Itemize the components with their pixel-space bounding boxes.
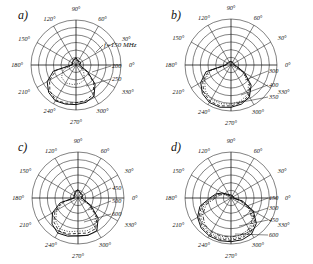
angle-label-0: 0° [132,194,138,201]
curve-value-label: 350 [268,93,279,100]
angle-label-180: 180° [12,194,24,201]
angle-label-300: 300° [251,108,264,115]
curve-value-label: 150 [269,194,279,201]
curve-value-label: 450 [269,216,279,223]
panel-letter-b: b) [171,8,181,23]
angle-label-120: 120° [198,147,210,154]
angle-label-180: 180° [11,61,23,68]
angle-label-210: 210° [18,88,30,95]
angle-label-300: 300° [96,107,109,114]
curve-value-label: 450 [112,184,122,191]
frequency-label: f=150 MHz [104,41,137,49]
angle-label-90: 90° [227,4,236,11]
panel-letter-c: c) [18,140,27,155]
angle-label-180: 180° [165,61,177,68]
angle-label-0: 0° [285,194,291,201]
angle-label-330: 330° [124,221,137,228]
angle-label-270: 270° [225,252,237,259]
angle-label-60: 60° [254,147,263,154]
angle-label-300: 300° [98,241,111,248]
angle-label-150: 150° [172,167,184,174]
angle-label-90: 90° [72,5,81,12]
curve-value-label: 300 [268,67,279,74]
angle-label-240: 240° [44,107,56,114]
pattern-curve-400 [203,62,250,106]
angular-spokes [31,20,121,110]
curve-value-label: 250 [112,75,122,82]
curve-value-label: 600 [112,210,122,217]
angle-label-240: 240° [198,108,210,115]
curve-value-labels: 450500600 [84,184,122,222]
angular-spokes [185,152,277,244]
angle-label-240: 240° [198,241,210,248]
polar-panel-c: c)0°30°60°90°120°150°180°210°240°270°300… [0,132,156,264]
angle-label-60: 60° [98,15,107,22]
angular-spokes [32,152,124,244]
curve-value-label: 600 [269,231,279,238]
angle-label-120: 120° [44,15,56,22]
angle-label-30: 30° [124,167,134,174]
angle-label-150: 150° [19,167,31,174]
angular-spokes [185,19,277,111]
angle-label-120: 120° [45,147,57,154]
angle-label-210: 210° [172,88,184,95]
angle-label-270: 270° [72,252,84,259]
angle-label-330: 330° [121,88,134,95]
angle-label-180: 180° [165,194,177,201]
angle-label-0: 0° [129,61,135,68]
angle-label-210: 210° [172,221,184,228]
angle-label-210: 210° [19,221,31,228]
polar-panel-d: d)0°30°60°90°120°150°180°210°240°270°300… [157,132,313,264]
angle-label-60: 60° [254,14,263,21]
curve-value-label: 400 [269,81,279,88]
pattern-curve-600 [203,194,253,237]
angle-label-30: 30° [277,167,287,174]
polar-panel-b: b)0°30°60°90°120°150°180°210°240°270°300… [157,0,313,132]
angle-label-30: 30° [277,34,287,41]
angle-label-0: 0° [285,61,291,68]
angle-label-330: 330° [277,221,290,228]
polar-panel-a: a)0°30°60°90°120°150°180°210°240°270°300… [0,0,156,132]
angle-label-270: 270° [225,119,237,126]
curve-value-label: 500 [112,197,122,204]
angle-label-60: 60° [101,147,110,154]
angle-label-150: 150° [18,35,30,42]
angle-label-90: 90° [74,137,83,144]
pattern-curve-450 [201,194,254,239]
angle-label-150: 150° [172,34,184,41]
angle-label-120: 120° [198,14,210,21]
angle-label-300: 300° [251,241,264,248]
angle-label-240: 240° [45,241,57,248]
curve-value-label: 300 [268,204,279,211]
angle-label-330: 330° [277,88,290,95]
angle-label-270: 270° [70,118,82,125]
panel-letter-d: d) [171,140,181,155]
curve-value-label: 200 [112,62,122,69]
angle-label-90: 90° [227,137,236,144]
polar-plot-figure: a)0°30°60°90°120°150°180°210°240°270°300… [0,0,313,264]
panel-letter-a: a) [18,8,28,23]
